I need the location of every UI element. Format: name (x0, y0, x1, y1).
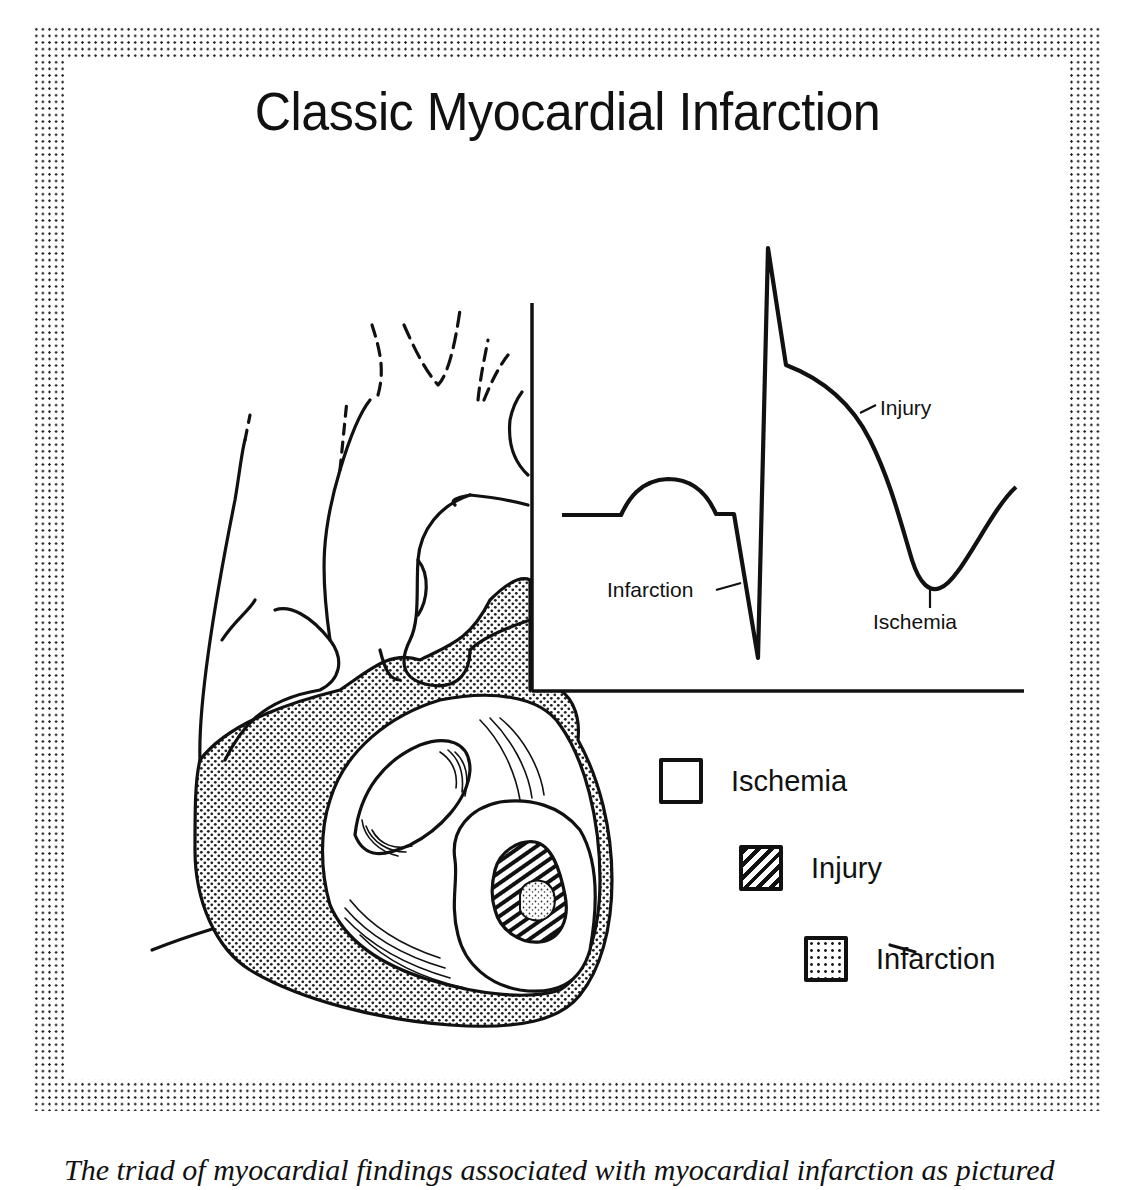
blank-square-icon (659, 758, 703, 804)
ecg-label-ischemia: Ischemia (873, 610, 957, 633)
legend-item-ischemia: Ischemia (659, 758, 847, 804)
hatched-square-icon (739, 845, 783, 891)
legend-item-infarction: Infarction (804, 936, 995, 982)
legend-item-injury: Injury (739, 845, 882, 891)
stippled-square-icon (804, 936, 848, 982)
infarction-core (520, 881, 555, 921)
figure-caption: The triad of myocardial findings associa… (64, 1150, 1104, 1190)
ecg-label-infarction: Infarction (607, 578, 693, 601)
ecg-label-injury: Injury (880, 396, 932, 419)
ecg-inset: Infarction Injury Ischemia (532, 248, 1032, 691)
